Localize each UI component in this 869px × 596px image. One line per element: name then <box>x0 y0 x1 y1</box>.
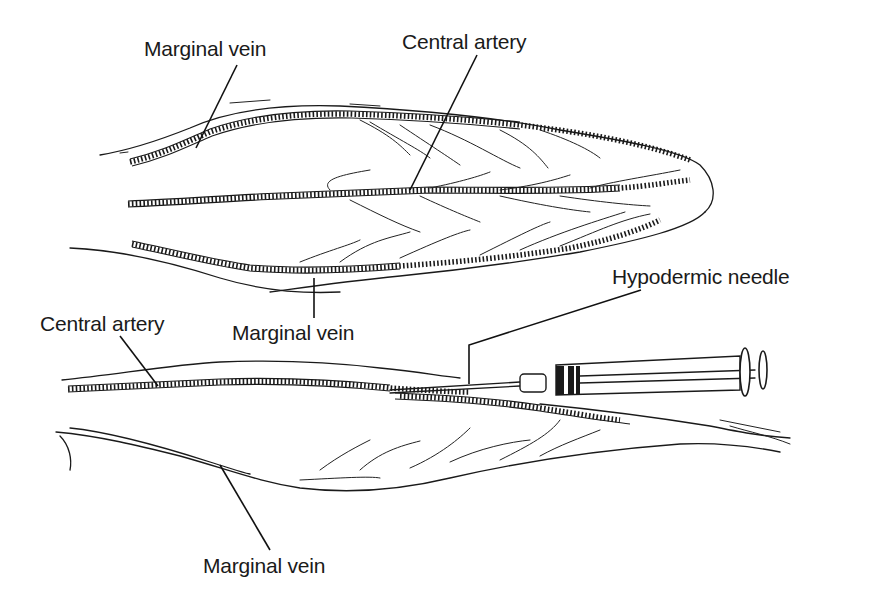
leader-top-central-artery <box>410 55 477 190</box>
label-hypodermic-needle: Hypodermic needle <box>612 266 790 287</box>
leader-bottom-marginal-vein <box>220 465 270 550</box>
label-top-central-artery: Central artery <box>402 31 526 52</box>
ear-illustration <box>0 0 869 596</box>
label-top-marginal-vein: Marginal vein <box>144 38 266 59</box>
label-mid-marginal-vein: Marginal vein <box>232 322 354 343</box>
leader-lower-central-artery <box>120 336 158 386</box>
label-bottom-marginal-vein: Marginal vein <box>203 555 325 576</box>
leader-top-marginal-vein <box>196 65 237 148</box>
syringe <box>390 348 767 396</box>
diagram-canvas: Marginal vein Central artery Marginal ve… <box>0 0 869 596</box>
label-lower-central-artery: Central artery <box>40 313 164 334</box>
upper-ear <box>70 100 713 292</box>
